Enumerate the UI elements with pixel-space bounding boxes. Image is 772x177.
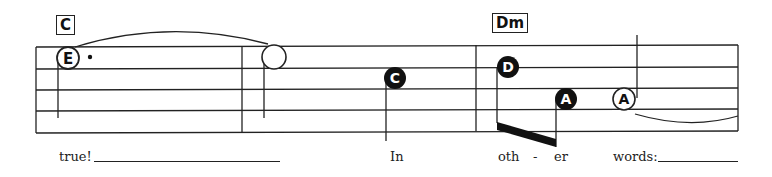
note-blank-open [262, 45, 286, 69]
augmentation-dot [88, 55, 92, 59]
staff-line-5 [36, 131, 738, 133]
lyric-hyphen: - [533, 150, 537, 164]
svg-text:A: A [619, 91, 630, 107]
note-e-open: E [57, 47, 79, 69]
lyric-oth: oth [498, 150, 519, 164]
beam [497, 122, 556, 147]
lyric-in: In [390, 150, 404, 164]
staff-line-3 [36, 88, 738, 90]
note-a-open: A [613, 88, 635, 110]
svg-text:C: C [390, 70, 400, 86]
note-c-filled: C [384, 67, 406, 89]
lyric-extender [94, 161, 280, 162]
svg-text:A: A [561, 91, 572, 107]
tie-arc [75, 32, 268, 47]
staff-line-4 [36, 109, 738, 111]
lyric-words: words: [613, 150, 658, 164]
lyric-er: er [554, 150, 568, 164]
chord-symbol-c: C [56, 15, 75, 35]
staff-line-2 [36, 67, 738, 69]
lyric-extender [658, 161, 738, 162]
svg-text:E: E [63, 50, 73, 68]
note-d-filled: D [497, 56, 519, 78]
tie-arc-end [635, 114, 738, 123]
svg-text:D: D [502, 59, 514, 75]
note-a-filled: A [555, 88, 577, 110]
staff-line-1 [36, 45, 738, 47]
chord-symbol-dm: Dm [492, 13, 528, 33]
lyric-true: true! [59, 150, 92, 164]
